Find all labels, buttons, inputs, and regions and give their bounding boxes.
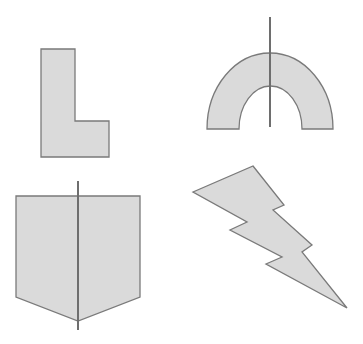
l-shape-outline <box>41 49 109 157</box>
lightning-bolt-outline <box>193 166 347 308</box>
lightning-bolt-shape <box>193 166 347 308</box>
l-shape <box>41 49 109 157</box>
arch-shape <box>207 17 333 129</box>
pentagon-shape <box>16 181 140 330</box>
symmetry-figure <box>0 0 363 344</box>
